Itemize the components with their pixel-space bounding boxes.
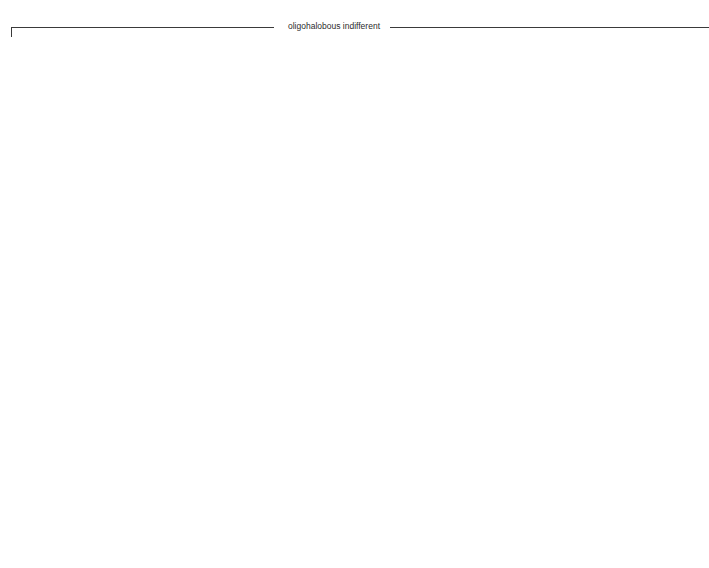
group-bracket-line-right — [390, 27, 709, 28]
group-bracket-line-left — [11, 27, 274, 28]
group-label-oligohalobous-indifferent: oligohalobous indifferent — [278, 21, 390, 32]
diagram-canvas: oligohalobous indifferent — [0, 0, 709, 568]
group-bracket-tick-left — [11, 27, 12, 37]
